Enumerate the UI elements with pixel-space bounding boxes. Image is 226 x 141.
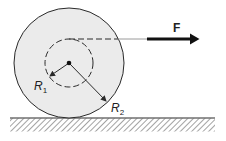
ground-hatching (10, 119, 215, 132)
force-arrow (147, 34, 200, 45)
spool-force-diagram: F R1 R2 (0, 0, 226, 141)
force-label: F (173, 21, 180, 35)
force-arrow-head-icon (190, 34, 200, 45)
radius-r2-symbol: R (111, 101, 120, 115)
radius-r1-subscript: 1 (43, 86, 48, 95)
ground (10, 118, 215, 132)
radius-r2-subscript: 2 (120, 108, 125, 117)
radius-r1-symbol: R (34, 79, 43, 93)
radius-r2-label: R2 (111, 101, 125, 117)
center-dot (67, 61, 72, 66)
